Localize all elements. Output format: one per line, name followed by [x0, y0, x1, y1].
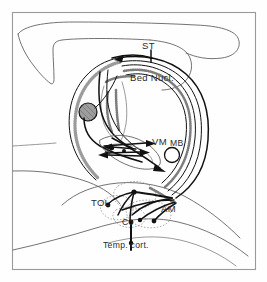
- label-a: A: [104, 145, 111, 156]
- node-am: [152, 219, 157, 224]
- mid-fiber-tracts: [84, 70, 180, 172]
- node-amyg-hub: [131, 189, 136, 194]
- shaded-nucleus: [79, 76, 117, 121]
- label-am: AM: [161, 203, 176, 214]
- contour-temporal-upper: [62, 183, 240, 238]
- amyg-fiber-tol: [108, 192, 134, 204]
- bed-nucleus-region: [101, 76, 134, 142]
- anatomy-diagram: ST Bed Nucl. VM MB A TOL Co AM Temp. cor…: [0, 0, 267, 282]
- contour-left-upper: [13, 143, 56, 146]
- contour-upper-outer: [18, 22, 239, 59]
- label-mb: MB: [170, 138, 184, 148]
- arrow-a-1-shaft: [108, 155, 142, 156]
- figure-frame: [13, 13, 256, 270]
- label-st: ST: [142, 40, 155, 51]
- label-temp-cort: Temp. cort.: [103, 240, 149, 250]
- label-bed-nucl: Bed Nucl.: [130, 72, 174, 83]
- st-arc-mid2: [122, 65, 195, 191]
- bed-nucl-stipple-2: [116, 90, 119, 130]
- amyg-fiber-1: [134, 192, 172, 198]
- figure-root: ST Bed Nucl. VM MB A TOL Co AM Temp. cor…: [0, 0, 267, 282]
- label-co: Co: [122, 217, 134, 227]
- label-tol: TOL: [91, 197, 110, 208]
- node-co-2: [138, 218, 142, 222]
- node-mid: [122, 149, 126, 153]
- label-vm: VM: [152, 136, 167, 147]
- mb-circle: [165, 148, 180, 163]
